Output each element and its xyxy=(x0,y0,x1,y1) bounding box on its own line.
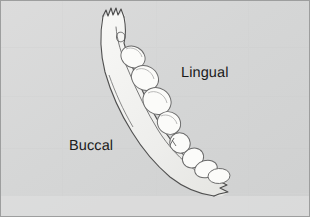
bottom-strip xyxy=(0,196,310,217)
figure-container: Lingual Buccal xyxy=(0,0,310,217)
label-buccal: Buccal xyxy=(69,139,113,154)
mandible-diagram xyxy=(0,0,310,217)
label-lingual: Lingual xyxy=(181,66,228,81)
